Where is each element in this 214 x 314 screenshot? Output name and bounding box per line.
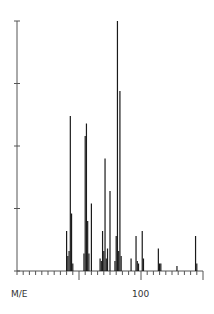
x-tick-label-100: 100 [132,289,149,299]
mass-spectrum-chart [0,0,214,314]
x-axis-label: M/E [11,289,27,299]
peak-series [67,21,197,271]
x-axis [17,271,203,280]
y-axis [14,21,20,271]
